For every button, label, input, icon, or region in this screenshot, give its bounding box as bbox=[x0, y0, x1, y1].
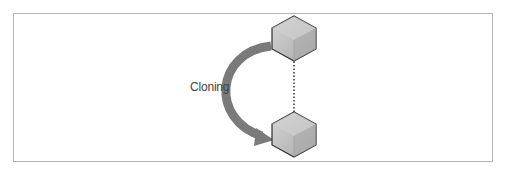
cloning-label: Cloning bbox=[190, 80, 229, 94]
cloning-diagram bbox=[0, 0, 506, 173]
original-cube bbox=[272, 16, 316, 61]
clone-cube bbox=[272, 112, 316, 157]
cloning-curved-arrow bbox=[226, 46, 274, 146]
